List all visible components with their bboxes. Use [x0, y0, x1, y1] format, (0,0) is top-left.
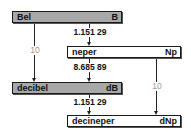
node-decineper-symbol: dNp: [160, 117, 178, 126]
node-neper: neper Np: [67, 46, 181, 58]
node-bel-name: Bel: [17, 13, 31, 22]
factor-neper-decineper: 10: [151, 82, 162, 91]
factor-neper-decibel: 8.685 89: [72, 63, 107, 72]
node-decibel-name: decibel: [17, 84, 48, 93]
node-neper-name: neper: [72, 48, 97, 57]
node-decineper: decineper dNp: [67, 115, 181, 127]
node-bel-symbol: B: [112, 13, 119, 22]
factor-bel-decibel: 10: [29, 46, 40, 55]
node-neper-symbol: Np: [165, 48, 177, 57]
node-decibel-symbol: dB: [106, 84, 118, 93]
node-decineper-name: decineper: [72, 117, 115, 126]
factor-bel-neper: 1.151 29: [72, 28, 107, 37]
node-bel: Bel B: [12, 11, 122, 23]
factor-decibel-decineper: 1.151 29: [72, 98, 107, 107]
node-decibel: decibel dB: [12, 82, 122, 94]
